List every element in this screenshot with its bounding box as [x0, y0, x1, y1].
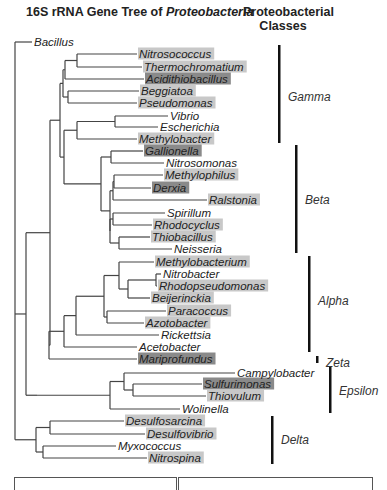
class-bar-delta	[271, 416, 274, 464]
taxon-label-ralstonia: Ralstonia	[209, 194, 257, 206]
class-label-epsilon: Epsilon	[339, 384, 379, 398]
taxon-label-methylophilus: Methylophilus	[165, 169, 236, 181]
taxon-label-pseudomonas: Pseudomonas	[139, 97, 213, 109]
taxon-label-escherichia: Escherichia	[160, 121, 219, 133]
taxon-label-acidithiobacillus: Acidithiobacillus	[145, 73, 228, 85]
class-label-alpha: Alpha	[317, 294, 349, 308]
taxon-label-rhodocyclus: Rhodocyclus	[154, 219, 220, 231]
class-label-delta: Delta	[281, 433, 309, 447]
taxon-label-derxia: Derxia	[153, 182, 186, 194]
taxon-label-mariprofundus: Mariprofundus	[139, 353, 213, 365]
taxon-label-gallionella: Gallionella	[145, 145, 199, 157]
taxon-label-myxococcus: Myxococcus	[118, 440, 182, 452]
class-bars: GammaBetaAlphaZetaEpsilonDelta	[271, 45, 379, 464]
taxon-label-nitrospina: Nitrospina	[149, 452, 201, 464]
taxon-label-nitrobacter: Nitrobacter	[163, 268, 220, 280]
taxon-label-beijerinckia: Beijerinckia	[152, 292, 211, 304]
class-label-beta: Beta	[305, 193, 330, 207]
taxon-label-thermochromatium: Thermochromatium	[144, 61, 244, 73]
taxa-labels: BacillusNitrosococcusThermochromatiumAci…	[34, 36, 316, 464]
taxon-label-desulfovibrio: Desulfovibrio	[147, 428, 214, 440]
taxon-label-thiovulum: Thiovulum	[208, 390, 261, 402]
taxon-label-thiobacillus: Thiobacillus	[152, 231, 213, 243]
taxon-label-nitrosomonas: Nitrosomonas	[166, 157, 237, 169]
class-label-gamma: Gamma	[288, 90, 331, 104]
class-label-zeta: Zeta	[325, 356, 350, 370]
taxon-label-paracoccus: Paracoccus	[168, 305, 228, 317]
class-bar-beta	[295, 145, 298, 253]
taxon-label-azotobacter: Azotobacter	[145, 317, 209, 329]
class-bar-epsilon	[329, 367, 332, 413]
bottom-panel-left	[14, 477, 177, 490]
taxon-label-desulfosarcina: Desulfosarcina	[126, 415, 202, 427]
taxon-label-methylobacterium: Methylobacterium	[156, 256, 247, 268]
taxon-label-nitrosococcus: Nitrosococcus	[139, 48, 211, 60]
taxon-label-sulfurimonas: Sulfurimonas	[204, 378, 271, 390]
taxon-label-beggiatoa: Beggiatoa	[141, 85, 193, 97]
taxon-label-bacillus: Bacillus	[34, 36, 74, 48]
taxon-label-rickettsia: Rickettsia	[161, 329, 211, 341]
class-bar-zeta	[316, 356, 319, 363]
class-bar-alpha	[308, 256, 311, 352]
taxon-label-methylobacter: Methylobacter	[139, 133, 212, 145]
taxon-label-wolinella: Wolinella	[182, 403, 229, 415]
class-bar-gamma	[278, 45, 281, 143]
taxon-label-acetobacter: Acetobacter	[138, 341, 202, 353]
taxon-label-rhodopseudomonas: Rhodopseudomonas	[159, 280, 265, 292]
taxon-label-neisseria: Neisseria	[174, 243, 222, 255]
bottom-panel-right	[178, 477, 373, 490]
taxon-label-spirillum: Spirillum	[167, 207, 212, 219]
